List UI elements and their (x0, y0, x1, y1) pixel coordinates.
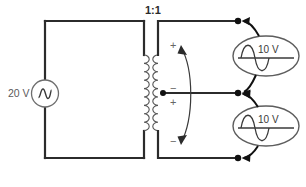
transformer-ratio-label: 1:1 (145, 5, 161, 16)
node-center-tap-terminal (235, 90, 241, 96)
leader-arrowhead-bottom (242, 154, 251, 162)
ac-source-symbol (32, 80, 59, 107)
polarity-mark-mid-minus: − (170, 83, 176, 94)
polarity-mark-mid-plus: + (170, 97, 176, 108)
lower-meter-outline (233, 106, 299, 146)
polarity-arrowhead-down (178, 135, 188, 145)
node-center-tap-coil (160, 90, 166, 96)
node-top-terminal (235, 18, 241, 24)
polarity-span-arrow (178, 45, 191, 145)
polarity-arrowhead-up (178, 45, 188, 55)
lower-meter-reading-label: 10 V (258, 115, 279, 125)
polarity-mark-top-plus: + (170, 40, 176, 51)
upper-voltmeter-symbol (233, 36, 299, 76)
node-bottom-terminal (235, 155, 241, 161)
polarity-mark-bottom-minus: − (170, 136, 176, 147)
primary-loop-wires (45, 21, 144, 158)
leader-arrowhead-top (242, 17, 251, 25)
circuit-schematic-svg (0, 0, 306, 187)
primary-winding-loops (144, 55, 149, 131)
upper-meter-outline (233, 36, 299, 76)
transformer-secondary-coil (153, 55, 158, 131)
leader-upper-to-center (244, 75, 256, 92)
source-voltage-label: 20 V (8, 88, 30, 99)
circuit-diagram: 1:1 20 V 10 V 10 V + − + − (0, 0, 306, 187)
transformer-primary-coil (144, 55, 149, 131)
upper-meter-reading-label: 10 V (258, 45, 279, 55)
polarity-arc (181, 47, 191, 143)
secondary-winding-loops (153, 55, 158, 131)
lower-voltmeter-symbol (233, 106, 299, 146)
